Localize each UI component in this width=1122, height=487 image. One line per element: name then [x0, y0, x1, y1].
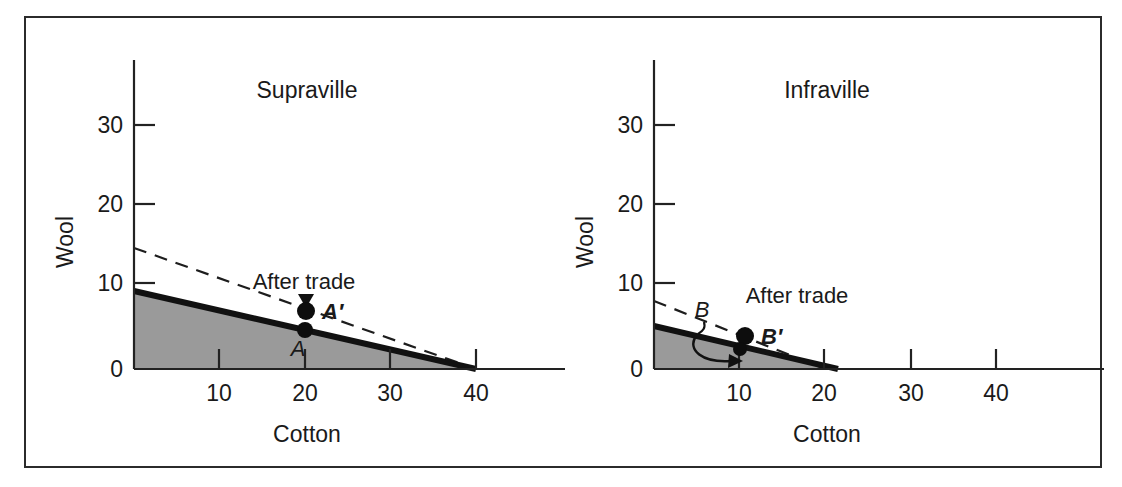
- y-tick-label-20: 20: [97, 191, 123, 217]
- x-tick-label-10: 10: [206, 380, 232, 406]
- infraville-plot: 30 20 10 0 10 20 30 40 Cotton Wool Infra…: [565, 18, 1104, 470]
- after-trade-label: After trade: [253, 269, 356, 294]
- point-b-prime-label: B′: [761, 324, 784, 349]
- y-tick-label-0: 0: [630, 356, 643, 382]
- x-tick-label-30: 30: [898, 380, 924, 406]
- point-b-label: B: [695, 297, 710, 322]
- after-trade-label: After trade: [746, 283, 849, 308]
- panel-title: Infraville: [784, 77, 870, 103]
- x-tick-label-20: 20: [811, 380, 837, 406]
- y-axis-title: Wool: [52, 216, 78, 268]
- x-tick-label-40: 40: [983, 380, 1009, 406]
- point-a-prime-dot: [297, 302, 315, 320]
- point-a-prime-label: A′: [321, 299, 345, 324]
- x-tick-label-40: 40: [463, 380, 489, 406]
- panel-title: Supraville: [257, 77, 358, 103]
- caption-strip: [24, 472, 1102, 486]
- panel-supraville: 30 20 10 0 10 20 30 40 Cotton Wool Supra…: [26, 18, 565, 470]
- figure-root: 30 20 10 0 10 20 30 40 Cotton Wool Supra…: [0, 0, 1122, 487]
- x-tick-label-20: 20: [292, 380, 318, 406]
- y-tick-label-10: 10: [97, 270, 123, 296]
- y-tick-label-30: 30: [617, 112, 643, 138]
- supraville-plot: 30 20 10 0 10 20 30 40 Cotton Wool Supra…: [26, 18, 565, 470]
- figure-frame: 30 20 10 0 10 20 30 40 Cotton Wool Supra…: [24, 16, 1102, 468]
- y-axis-title: Wool: [572, 216, 598, 268]
- y-tick-label-30: 30: [97, 112, 123, 138]
- x-tick-label-30: 30: [377, 380, 403, 406]
- y-tick-label-10: 10: [617, 270, 643, 296]
- x-axis-title: Cotton: [793, 421, 861, 447]
- y-tick-label-0: 0: [110, 356, 123, 382]
- point-b-dot: [733, 342, 747, 356]
- panel-infraville: 30 20 10 0 10 20 30 40 Cotton Wool Infra…: [565, 18, 1104, 470]
- point-b-leader-line: [698, 322, 705, 334]
- y-tick-label-20: 20: [617, 191, 643, 217]
- point-a-label: A: [289, 336, 306, 361]
- x-axis-title: Cotton: [273, 421, 341, 447]
- x-tick-label-10: 10: [726, 380, 752, 406]
